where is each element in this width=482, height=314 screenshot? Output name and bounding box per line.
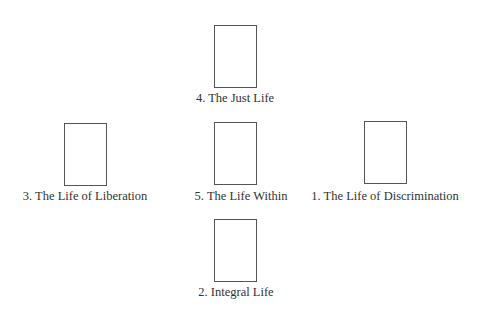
- card-label-life-within: 5. The Life Within: [195, 189, 288, 203]
- card-spread-diagram: 4. The Just Life 3. The Life of Liberati…: [0, 0, 482, 314]
- card-slot-life-within: [214, 122, 257, 185]
- card-slot-life-of-liberation: [64, 123, 107, 186]
- card-label-life-of-discrimination: 1. The Life of Discrimination: [311, 189, 458, 203]
- card-slot-life-of-discrimination: [364, 121, 407, 184]
- card-slot-just-life: [214, 25, 257, 88]
- card-slot-integral-life: [214, 219, 257, 282]
- card-label-integral-life: 2. Integral Life: [198, 285, 273, 299]
- card-label-life-of-liberation: 3. The Life of Liberation: [23, 189, 147, 203]
- card-label-just-life: 4. The Just Life: [196, 91, 274, 105]
